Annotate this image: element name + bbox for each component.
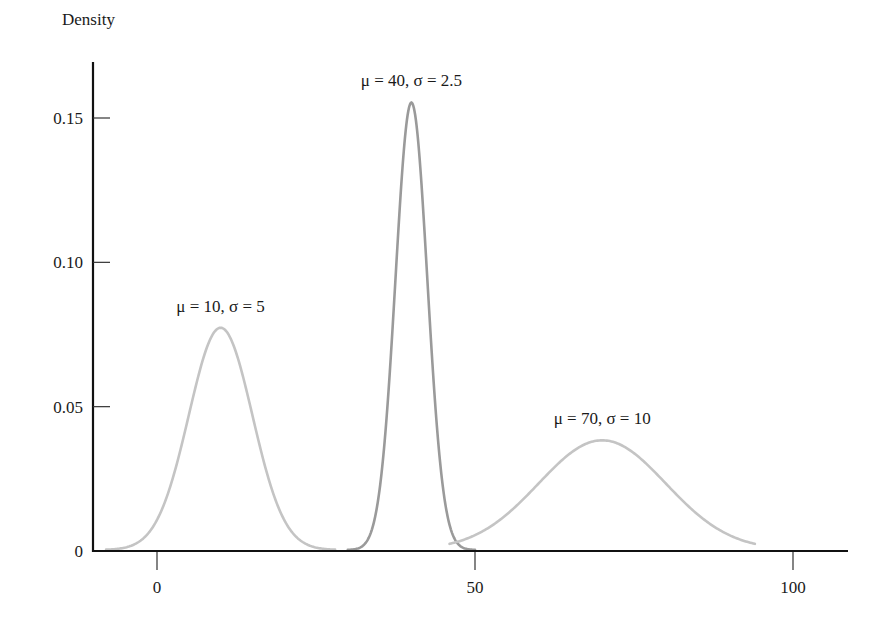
curve-label-1: μ = 10, σ = 5 bbox=[176, 297, 264, 316]
y-tick-label: 0 bbox=[75, 542, 84, 561]
x-tick-label: 0 bbox=[153, 578, 162, 597]
y-axis-title: Density bbox=[62, 10, 115, 29]
density-curve-3 bbox=[450, 440, 755, 544]
y-tick-label: 0.15 bbox=[53, 109, 83, 128]
curve-label-3: μ = 70, σ = 10 bbox=[554, 409, 651, 428]
density-curve-1 bbox=[106, 328, 335, 550]
y-tick-label: 0.10 bbox=[53, 253, 83, 272]
density-curves bbox=[106, 103, 755, 550]
y-ticks: 00.050.100.15 bbox=[53, 109, 110, 561]
curve-label-2: μ = 40, σ = 2.5 bbox=[361, 71, 462, 90]
density-curve-2 bbox=[348, 103, 475, 550]
x-tick-label: 100 bbox=[780, 578, 806, 597]
x-ticks: 050100 bbox=[153, 552, 806, 597]
x-tick-label: 50 bbox=[467, 578, 484, 597]
y-tick-label: 0.05 bbox=[53, 398, 83, 417]
density-chart: 00.050.100.15 050100 Density μ = 10, σ =… bbox=[0, 0, 884, 621]
curve-annotations: μ = 10, σ = 5μ = 40, σ = 2.5μ = 70, σ = … bbox=[176, 71, 650, 428]
